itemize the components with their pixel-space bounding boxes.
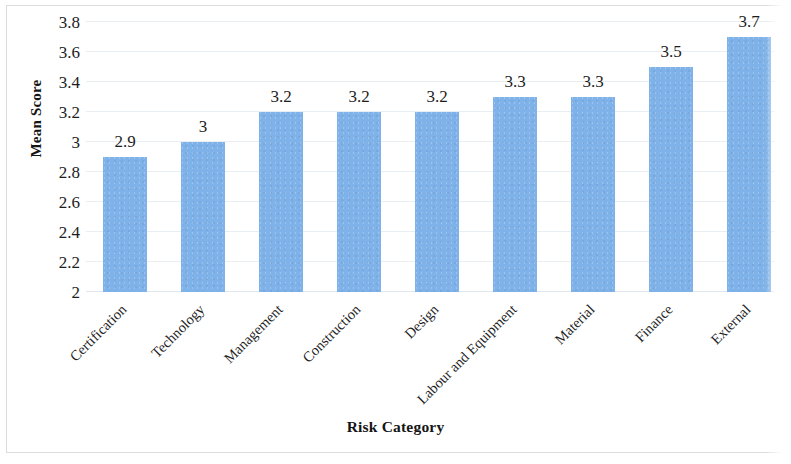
bar <box>181 142 225 292</box>
bar-value-label: 3.2 <box>247 88 315 105</box>
y-axis-tick-label: 2.2 <box>59 254 80 271</box>
y-axis-ticks: 22.22.42.62.833.23.43.63.8 <box>38 22 80 292</box>
bar-chart-figure: Mean Score 22.22.42.62.833.23.43.63.8 2.… <box>0 0 791 464</box>
bar-value-label: 3.2 <box>403 88 471 105</box>
bar-value-label: 3.3 <box>559 73 627 90</box>
bar-value-label: 2.9 <box>91 133 159 150</box>
y-axis-tick-label: 2.4 <box>59 224 80 241</box>
y-axis-tick-label: 2 <box>72 284 81 301</box>
bar <box>727 37 771 292</box>
x-axis-tick-label: Technology <box>149 302 208 361</box>
x-axis-tick-label: Management <box>221 302 285 366</box>
y-axis-tick-label: 2.6 <box>59 194 80 211</box>
x-axis-tick-label: Finance <box>633 302 676 345</box>
x-axis-title: Risk Category <box>0 418 791 436</box>
bar-value-label: 3.7 <box>715 13 783 30</box>
y-axis-tick-label: 2.8 <box>59 164 80 181</box>
y-axis-tick-label: 3.2 <box>59 104 80 121</box>
bar <box>103 157 147 292</box>
x-axis-ticks: CertificationTechnologyManagementConstru… <box>86 296 775 406</box>
y-axis-tick-label: 3.8 <box>59 14 80 31</box>
bar <box>649 67 693 292</box>
bar-value-label: 3.2 <box>325 88 393 105</box>
bar <box>493 97 537 292</box>
plot-area: 2.933.23.23.23.33.33.53.7 <box>86 22 775 292</box>
bar <box>337 112 381 292</box>
x-axis-tick-label: Construction <box>300 302 363 365</box>
y-axis-tick-label: 3 <box>72 134 81 151</box>
x-axis-tick-label: Certification <box>67 302 129 364</box>
bar-value-label: 3.3 <box>481 73 549 90</box>
x-axis-tick-label: Design <box>402 302 441 341</box>
bar <box>259 112 303 292</box>
y-axis-tick-label: 3.4 <box>59 74 80 91</box>
gridline <box>86 21 775 22</box>
bar-value-label: 3.5 <box>637 43 705 60</box>
x-axis-tick-label: External <box>708 302 753 347</box>
x-axis-tick-label: Material <box>552 302 597 347</box>
bar-value-label: 3 <box>169 118 237 135</box>
bar <box>415 112 459 292</box>
bar <box>571 97 615 292</box>
y-axis-tick-label: 3.6 <box>59 44 80 61</box>
